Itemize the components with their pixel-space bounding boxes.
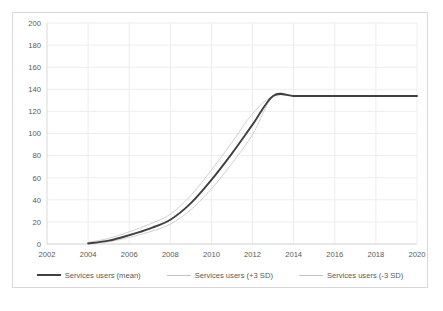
y-tick-label: 20 xyxy=(33,218,41,227)
legend-item-label: Services users (mean) xyxy=(65,271,141,280)
x-tick-label: 2020 xyxy=(409,250,426,259)
x-tick-label: 2008 xyxy=(162,250,179,259)
legend-item[interactable]: Services users (mean) xyxy=(37,271,141,280)
y-tick-label: 120 xyxy=(28,107,41,116)
y-tick-label: 180 xyxy=(28,41,41,50)
x-tick-label: 2004 xyxy=(80,250,97,259)
legend-item-label: Services users (-3 SD) xyxy=(327,271,403,280)
x-tick-label: 2018 xyxy=(367,250,384,259)
chart-legend: Services users (mean)Services users (+3 … xyxy=(13,263,427,287)
x-axis-tick-labels: 2002200420062008201020122014201620182020 xyxy=(39,250,426,259)
legend-item[interactable]: Services users (+3 SD) xyxy=(167,271,273,280)
legend-item-label: Services users (+3 SD) xyxy=(195,271,273,280)
chart-card: 020406080100120140160180200 200220042006… xyxy=(12,12,428,288)
x-tick-label: 2002 xyxy=(39,250,56,259)
y-tick-label: 140 xyxy=(28,85,41,94)
y-tick-label: 0 xyxy=(37,240,41,249)
y-tick-label: 160 xyxy=(28,63,41,72)
x-tick-label: 2006 xyxy=(121,250,138,259)
legend-item[interactable]: Services users (-3 SD) xyxy=(299,271,403,280)
y-tick-label: 200 xyxy=(28,19,41,28)
line-chart-svg: 020406080100120140160180200 200220042006… xyxy=(13,13,427,261)
x-tick-label: 2014 xyxy=(285,250,302,259)
legend-line-swatch-icon xyxy=(299,275,323,276)
legend-line-swatch-icon xyxy=(167,275,191,276)
plot-area: 020406080100120140160180200 200220042006… xyxy=(13,13,427,261)
y-tick-label: 60 xyxy=(33,174,41,183)
x-tick-label: 2016 xyxy=(326,250,343,259)
y-tick-label: 80 xyxy=(33,151,41,160)
x-tick-label: 2012 xyxy=(244,250,261,259)
legend-line-swatch-icon xyxy=(37,274,61,276)
horizontal-gridlines xyxy=(47,23,417,244)
x-tick-label: 2010 xyxy=(203,250,220,259)
y-tick-label: 100 xyxy=(28,129,41,138)
y-axis-tick-labels: 020406080100120140160180200 xyxy=(28,19,41,249)
y-tick-label: 40 xyxy=(33,196,41,205)
